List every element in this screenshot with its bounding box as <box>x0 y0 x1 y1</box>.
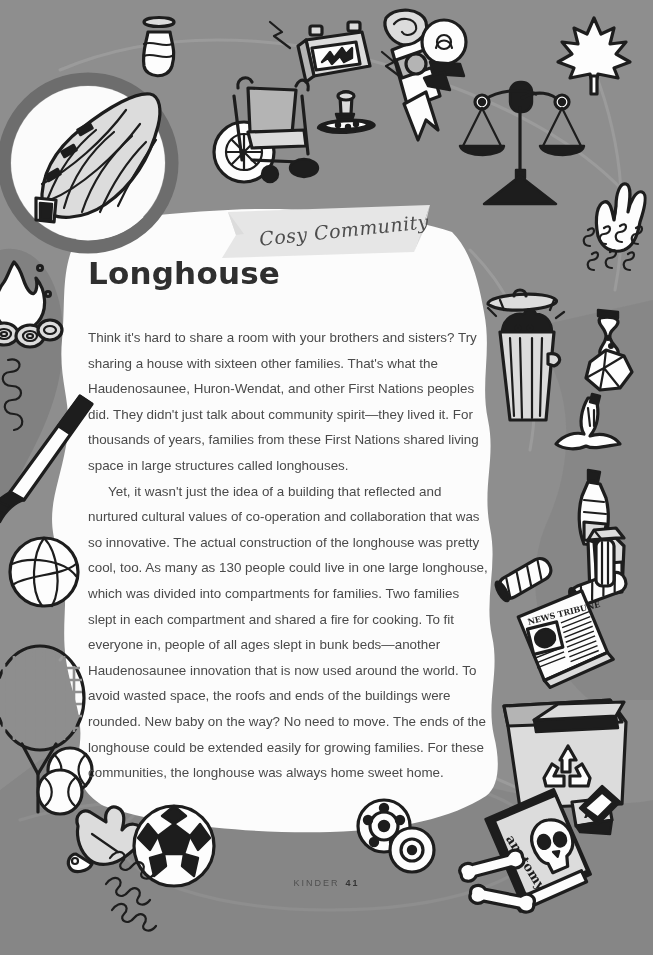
trash-can-icon <box>488 290 564 420</box>
rolled-paper-icon <box>493 555 554 603</box>
page-title: Longhouse <box>88 255 488 291</box>
crumpled-paper-icon <box>586 350 632 390</box>
footer-book-title: KINDER <box>293 878 339 888</box>
newspaper-icon: NEWS TRIBUNE <box>516 587 617 690</box>
paragraph-2: Yet, it wasn't just the idea of a buildi… <box>88 479 488 786</box>
magazine-page: Cosy Community <box>0 0 653 955</box>
page-footer: KINDER41 <box>0 878 653 888</box>
article-paragraphs: Think it's hard to share a room with you… <box>88 325 488 786</box>
article-body: Longhouse Think it's hard to share a roo… <box>88 255 488 786</box>
rolled-paper-icon <box>596 540 614 586</box>
footer-page-number: 41 <box>346 878 360 888</box>
film-reel-icon <box>390 828 434 872</box>
banana-peel-icon <box>556 394 620 449</box>
paragraph-1: Think it's hard to share a room with you… <box>88 325 488 479</box>
